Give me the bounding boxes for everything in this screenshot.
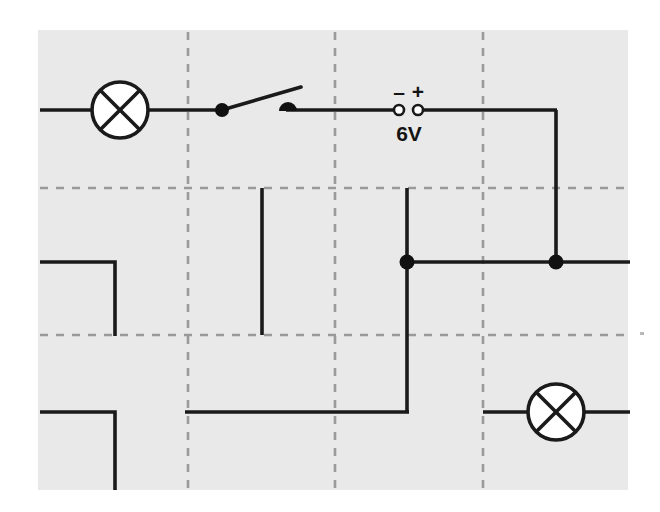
page-scan-speck [640, 332, 644, 335]
lamp-bottom-right[interactable] [528, 384, 584, 440]
power-supply-voltage-label: 6V [396, 122, 422, 145]
circuit-schematic: – + 6V [0, 0, 660, 512]
power-supply-minus-label: – [393, 80, 405, 103]
switch-pivot-terminal-dot [215, 103, 229, 117]
circuit-diagram-canvas: – + 6V [0, 0, 660, 512]
junction-node-right [549, 255, 564, 270]
power-supply-positive-terminal [413, 105, 423, 115]
junction-node-centre [400, 255, 415, 270]
power-supply-plus-label: + [412, 80, 424, 103]
lamp-top-left[interactable] [92, 82, 148, 138]
power-supply-negative-terminal [394, 105, 404, 115]
